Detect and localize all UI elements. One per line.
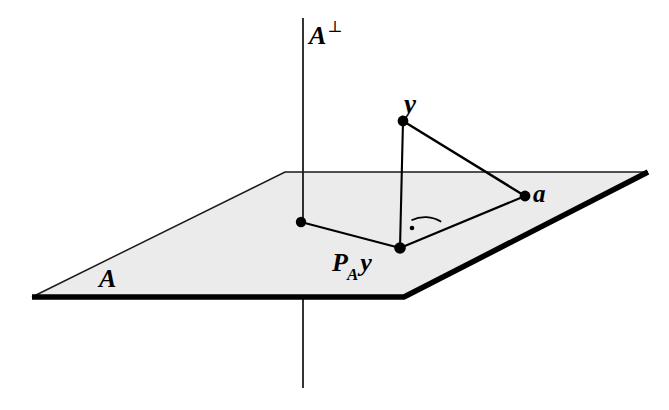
label-projection-PAy: PAy: [332, 250, 372, 280]
label-A-perp-base: A: [309, 21, 326, 50]
right-angle-dot: [410, 226, 415, 231]
label-point-y: y: [404, 91, 416, 118]
point-projection-dot: [394, 242, 406, 254]
label-projection-subscript: A: [347, 265, 358, 284]
point-a-dot: [520, 191, 531, 202]
label-point-a: a: [533, 181, 546, 206]
label-projection-y: y: [360, 248, 372, 277]
perp-symbol-icon: ⊥: [327, 18, 342, 35]
point-axis-foot-dot: [296, 217, 306, 227]
label-projection-P: P: [332, 248, 348, 277]
label-plane-A: A: [99, 266, 116, 292]
label-A-perp: A⊥: [309, 21, 341, 49]
projection-diagram: A⊥ y a PAy A: [0, 0, 669, 410]
diagram-canvas: [0, 0, 669, 410]
